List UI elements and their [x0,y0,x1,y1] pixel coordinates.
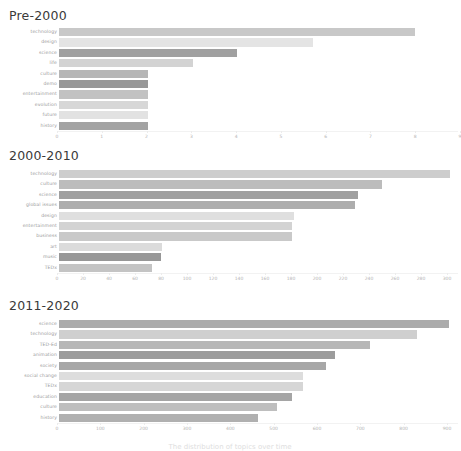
bar-category-label: science [0,319,59,329]
bar-category-label: entertainment [0,89,59,99]
bar-row: entertainment [0,89,460,99]
axis-tick-label: 8 [414,134,417,139]
axis-tick-label: 6 [324,134,327,139]
bar-row: design [0,211,460,221]
axis-line [57,423,458,424]
axis-tick-mark [83,273,84,275]
bar-track [59,350,460,360]
bar-row: entertainment [0,221,460,231]
bar-track [59,37,460,47]
bar-track [59,231,460,241]
axis-tick-label: 300 [443,276,452,281]
bar-row: technology [0,329,460,339]
axis-tick-label: 3 [190,134,193,139]
chart-title-pre-2000: Pre-2000 [0,0,460,23]
bar [59,170,450,178]
bar-category-label: design [0,37,59,47]
bar-category-label: culture [0,179,59,189]
bar-row: music [0,252,460,262]
bar [59,330,417,338]
bar-track [59,89,460,99]
axis-tick-mark [421,273,422,275]
bar-category-label: business [0,231,59,241]
axis-tick-mark [213,273,214,275]
bar [59,414,258,422]
axis-tick-label: 500 [269,426,278,431]
bar-category-label: technology [0,27,59,37]
bar-row: business [0,231,460,241]
axis-tick-mark [265,273,266,275]
bar-track [59,263,460,273]
bar-category-label: TEDx [0,263,59,273]
bar-rows-2011-2020: sciencetechnologyTED-Edanimationsocietys… [0,319,460,423]
axis-tick-label: 700 [356,426,365,431]
bar [59,253,161,261]
bar-row: animation [0,350,460,360]
bar [59,232,292,240]
bar-category-label: life [0,58,59,68]
bar [59,201,355,209]
axis-tick-label: 240 [365,276,374,281]
bar-category-label: technology [0,329,59,339]
bar [59,362,326,370]
bar [59,243,162,251]
axis-tick-mark [370,131,371,133]
bar-category-label: history [0,121,59,131]
bar [59,49,237,57]
bar-category-label: evolution [0,100,59,110]
plot-area-2000-2010: technologyculturescienceglobal issuesdes… [0,169,460,286]
axis-tick-mark [236,131,237,133]
bar-category-label: global issues [0,200,59,210]
bar-category-label: art [0,242,59,252]
bar [59,382,303,390]
bar [59,101,148,109]
bar-track [59,371,460,381]
axis-tick-mark [317,273,318,275]
plot-area-pre-2000: technologydesignsciencelifeculturedemoen… [0,27,460,144]
bar-track [59,100,460,110]
axis-tick-label: 140 [235,276,244,281]
bar-row: demo [0,79,460,89]
axis-tick-mark [57,273,58,275]
bar-row: society [0,361,460,371]
bar-track [59,48,460,58]
axis-tick-mark [230,423,231,425]
bar-track [59,392,460,402]
bar [59,90,148,98]
bar-track [59,221,460,231]
bar-track [59,200,460,210]
bar-track [59,340,460,350]
bar [59,111,148,119]
bar-category-label: science [0,190,59,200]
bar-row: design [0,37,460,47]
axis-tick-label: 180 [287,276,296,281]
bar-row: culture [0,69,460,79]
bar-track [59,79,460,89]
bar-row: culture [0,402,460,412]
axis-tick-mark [144,423,145,425]
bar [59,70,148,78]
axis-tick-label: 5 [279,134,282,139]
bar-track [59,402,460,412]
bar-row: global issues [0,200,460,210]
axis-tick-mark [274,423,275,425]
bar [59,191,358,199]
axis-tick-label: 260 [391,276,400,281]
bar-row: future [0,110,460,120]
axis-tick-label: 160 [261,276,270,281]
axis-tick-label: 4 [235,134,238,139]
axis-tick-mark [57,131,58,133]
axis-tick-mark [415,131,416,133]
chart-title-2011-2020: 2011-2020 [0,292,460,313]
bar-row: art [0,242,460,252]
bar [59,180,382,188]
bar-category-label: music [0,252,59,262]
bar-row: culture [0,179,460,189]
axis-tick-mark [187,273,188,275]
bar-track [59,190,460,200]
bar-row: science [0,190,460,200]
bar-category-label: social change [0,371,59,381]
bar [59,372,303,380]
bar-row: TED-Ed [0,340,460,350]
bar-track [59,361,460,371]
